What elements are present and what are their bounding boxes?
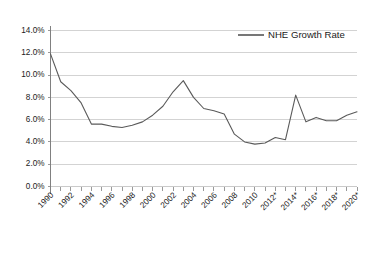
x-tick-label: 2016*	[300, 190, 322, 212]
chart-container: 0.0%2.0%4.0%6.0%8.0%10.0%12.0%14.0% 1990…	[0, 0, 375, 255]
x-tick-label: 2008	[220, 190, 240, 210]
y-tick-label: 2.0%	[26, 159, 45, 168]
line-chart: 0.0%2.0%4.0%6.0%8.0%10.0%12.0%14.0% 1990…	[0, 0, 375, 255]
x-tick-label: 2020*	[340, 190, 362, 212]
y-tick-labels-group: 0.0%2.0%4.0%6.0%8.0%10.0%12.0%14.0%	[21, 26, 44, 191]
y-tick-label: 4.0%	[26, 137, 45, 146]
x-tick-label: 1996	[97, 190, 117, 210]
x-tick-label: 2014*	[279, 190, 301, 212]
y-tick-label: 0.0%	[26, 182, 45, 191]
y-tick-label: 8.0%	[26, 93, 45, 102]
x-tick-marks-group	[51, 187, 358, 191]
x-tick-label: 1994	[77, 190, 97, 210]
y-tick-label: 10.0%	[21, 70, 44, 79]
series-line-nhe-growth-rate	[51, 54, 358, 144]
legend-label: NHE Growth Rate	[268, 29, 345, 40]
y-tick-label: 12.0%	[21, 48, 44, 57]
x-tick-label: 1990	[36, 190, 56, 210]
x-tick-label: 2018*	[320, 190, 342, 212]
y-tick-label: 14.0%	[21, 26, 44, 35]
y-axis-group	[48, 26, 51, 194]
x-tick-label: 2006	[200, 190, 220, 210]
x-tick-label: 2000	[138, 190, 158, 210]
x-tick-label: 1992	[57, 190, 77, 210]
x-tick-label: 2010	[241, 190, 261, 210]
x-tick-label: 1998	[118, 190, 138, 210]
y-tick-label: 6.0%	[26, 115, 45, 124]
x-tick-label: 2012*	[259, 190, 281, 212]
series-group	[51, 54, 358, 144]
x-tick-labels-group: 1990199219941996199820002002200420062008…	[36, 190, 362, 212]
x-tick-label: 2002	[159, 190, 179, 210]
x-tick-label: 2004	[179, 190, 199, 210]
